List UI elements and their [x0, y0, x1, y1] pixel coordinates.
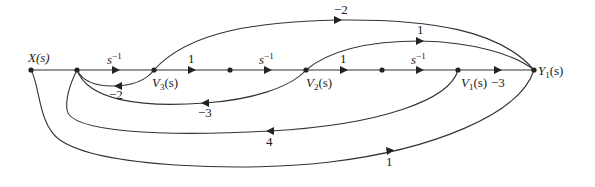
arrow-v2-c	[340, 66, 348, 74]
label-v3: V3(s)	[152, 75, 178, 92]
gain-v2-a: −3	[198, 105, 212, 120]
gain-c-v1: s−1	[411, 51, 426, 67]
gain-v1-y1: −3	[491, 75, 505, 90]
arrow-v1-y1	[494, 66, 502, 74]
node-b	[227, 67, 232, 72]
gain-v3-y1: −2	[334, 2, 348, 17]
label-x: X(s)	[27, 50, 50, 65]
arrow-c-v1	[416, 66, 424, 74]
gain-b-v2: s−1	[259, 51, 274, 67]
arrow-b-v2	[264, 66, 272, 74]
gain-v3-a: −2	[109, 87, 123, 102]
label-y1: Y1(s)	[538, 63, 563, 80]
gain-v3-b: 1	[188, 51, 195, 66]
gain-a-v3: s−1	[107, 51, 122, 67]
label-v2: V2(s)	[306, 75, 332, 92]
arrow-v2-y1	[416, 37, 424, 45]
edge-v3-a	[77, 70, 154, 86]
gain-v2-c: 1	[340, 51, 347, 66]
arrow-v3-b	[188, 66, 196, 74]
arrow-a-v3	[112, 66, 120, 74]
node-c	[379, 67, 384, 72]
signal-flow-graph: X(s) V3(s) V2(s) V1(s) Y1(s) s−1 1 s−1 1…	[0, 0, 595, 187]
arrow-v3-y1	[334, 16, 342, 24]
gain-x-y1: 1	[386, 154, 393, 169]
gain-v1-a: 4	[266, 134, 273, 149]
node-v3	[151, 67, 156, 72]
edge-v1-a	[67, 70, 458, 133]
node-v2	[303, 67, 308, 72]
label-v1: V1(s)	[461, 75, 487, 92]
node-y1	[531, 67, 536, 72]
node-a	[74, 67, 79, 72]
edge-x-y1	[31, 70, 534, 167]
node-x	[28, 67, 33, 72]
node-v1	[455, 67, 460, 72]
gain-v2-y1: 1	[417, 22, 424, 37]
